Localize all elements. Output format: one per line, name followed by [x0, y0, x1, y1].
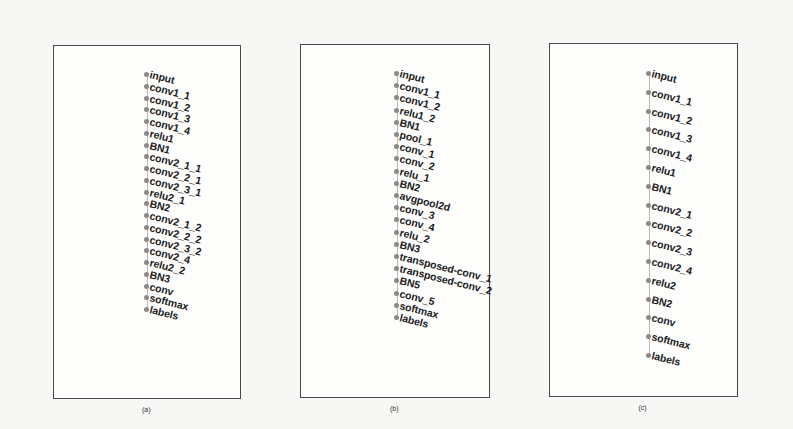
node-dot-icon [394, 108, 399, 113]
panel-b: inputconv1_1conv1_2relu1_2BN1pool_1conv_… [300, 44, 490, 398]
panel-caption-c: (c) [639, 404, 647, 411]
layer-label: conv1_3 [651, 124, 694, 146]
layer-label: conv2_3 [651, 236, 694, 258]
layer-graph: inputconv1_1conv1_2conv1_3conv1_4relu1BN… [54, 46, 240, 398]
node-dot-icon [646, 109, 651, 114]
layer-label: relu2 [651, 274, 678, 292]
panel-caption-b: (b) [390, 405, 399, 412]
layer-label: softmax [651, 330, 692, 351]
node-dot-icon [144, 178, 149, 183]
panel-c: inputconv1_1conv1_2conv1_3conv1_4relu1BN… [549, 43, 738, 397]
node-dot-icon [144, 84, 149, 89]
node-dot-icon [144, 284, 149, 289]
node-dot-icon [394, 169, 399, 174]
layer-label: conv2_2 [651, 218, 694, 240]
layer-label: relu1 [651, 161, 678, 179]
layer-label: input [651, 67, 678, 85]
layer-label: conv2_4 [651, 255, 694, 277]
node-dot-icon [646, 203, 651, 208]
node-dot-icon [144, 237, 149, 242]
node-dot-icon [394, 230, 399, 235]
panel-a: inputconv1_1conv1_2conv1_3conv1_4relu1BN… [53, 45, 241, 399]
node-dot-icon [144, 190, 149, 195]
layer-label: conv1_1 [651, 86, 694, 108]
layer-graph: inputconv1_1conv1_2conv1_3conv1_4relu1BN… [550, 44, 737, 396]
node-dot-icon [144, 131, 149, 136]
layer-graph: inputconv1_1conv1_2relu1_2BN1pool_1conv_… [301, 45, 489, 397]
layer-label: BN2 [651, 293, 674, 310]
node-dot-icon [144, 143, 149, 148]
node-dot-icon [394, 291, 399, 296]
layer-label: BN1 [651, 180, 674, 197]
layer-label: conv1_4 [651, 142, 694, 164]
panel-caption-a: (a) [142, 406, 151, 413]
node-dot-icon [144, 225, 149, 230]
layer-label: conv [651, 312, 677, 329]
node-dot-icon [646, 297, 651, 302]
node-dot-icon [144, 272, 149, 277]
node-dot-icon [144, 96, 149, 101]
layer-label: labels [651, 349, 682, 368]
